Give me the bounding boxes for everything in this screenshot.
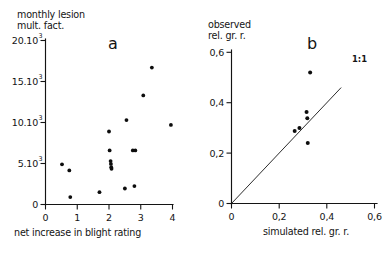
panel-b-xlabel: simulated rel. gr. r. xyxy=(263,226,349,237)
data-point xyxy=(68,195,72,199)
panel-a-x-ticks xyxy=(46,205,173,210)
panel-a-x-ticklabels: 0 1 2 3 4 xyxy=(43,212,176,223)
panel-b-xtick-0.4: 0,4 xyxy=(320,211,335,222)
panel-b-ytick-0: 0 xyxy=(218,198,224,209)
panel-a-ytick-15000: 15.10 xyxy=(12,76,38,87)
panel-a-xtick-4: 4 xyxy=(170,212,176,223)
scatter-figure: monthly lesion mult. fact. a 0 5.10 3 10… xyxy=(0,0,389,258)
panel-a-y-ticks xyxy=(41,41,46,205)
panel-b-ytick-0.4: 0,4 xyxy=(209,97,224,108)
panel-a-ytick-20000: 20.10 xyxy=(12,35,38,46)
panel-b-letter: b xyxy=(307,34,317,53)
panel-b-reference-line-label: 1:1 xyxy=(352,54,367,64)
panel-b-xtick-0.2: 0,2 xyxy=(272,211,287,222)
data-point xyxy=(107,130,111,134)
panel-b: observed rel. gr. r. b 0 0,2 0,4 0,6 xyxy=(208,19,382,237)
panel-a: monthly lesion mult. fact. a 0 5.10 3 10… xyxy=(12,9,176,238)
data-point xyxy=(308,70,312,74)
panel-a-xtick-1: 1 xyxy=(74,212,80,223)
data-point xyxy=(123,187,127,191)
data-point xyxy=(169,123,173,127)
panel-a-xtick-2: 2 xyxy=(106,212,112,223)
panel-a-data-points xyxy=(60,66,173,199)
data-point xyxy=(305,110,309,114)
panel-a-ylabel-line1: monthly lesion xyxy=(17,9,85,20)
data-point xyxy=(67,169,71,173)
panel-a-ylabel-line2: mult. fact. xyxy=(17,20,64,31)
panel-a-ytick-5000: 5.10 xyxy=(18,158,39,169)
panel-a-ytick-0: 0 xyxy=(32,199,38,210)
data-point xyxy=(305,116,309,120)
panel-a-letter: a xyxy=(108,34,118,53)
data-point xyxy=(133,148,137,152)
panel-a-xtick-3: 3 xyxy=(138,212,144,223)
panel-b-x-ticks xyxy=(232,204,375,209)
panel-b-x-ticklabels: 0 0,2 0,4 0,6 xyxy=(229,211,382,222)
panel-a-xlabel: net increase in blight rating xyxy=(14,227,141,238)
panel-a-ytick-10000: 10.10 xyxy=(12,117,38,128)
panel-b-y-ticks xyxy=(227,52,232,203)
data-point xyxy=(293,129,297,133)
panel-a-ytick-10000-exponent: 3 xyxy=(39,114,43,122)
panel-a-xtick-0: 0 xyxy=(43,212,49,223)
panel-b-ytick-0.2: 0,2 xyxy=(209,148,224,159)
data-point xyxy=(141,94,145,98)
data-point xyxy=(125,118,129,122)
panel-a-ytick-20000-exponent: 3 xyxy=(39,32,43,40)
panel-b-data-points xyxy=(293,70,312,145)
panel-b-xtick-0: 0 xyxy=(229,211,235,222)
panel-b-ytick-0.6: 0,6 xyxy=(209,47,224,58)
data-point xyxy=(108,148,112,152)
data-point xyxy=(133,184,137,188)
data-point xyxy=(109,162,113,166)
panel-b-ylabel-line1: observed xyxy=(208,19,251,30)
panel-b-reference-line-1to1 xyxy=(232,88,342,204)
data-point xyxy=(306,141,310,145)
data-point xyxy=(150,66,154,70)
panel-b-ylabel-line2: rel. gr. r. xyxy=(208,30,246,41)
panel-a-y-ticklabels: 0 5.10 3 10.10 3 15.10 3 20.10 3 xyxy=(12,32,43,210)
panel-a-ytick-5000-exponent: 3 xyxy=(39,155,43,163)
panel-a-ytick-15000-exponent: 3 xyxy=(39,73,43,81)
panel-b-xtick-0.6: 0,6 xyxy=(367,211,382,222)
figure-container: monthly lesion mult. fact. a 0 5.10 3 10… xyxy=(0,0,389,258)
data-point xyxy=(297,126,301,130)
data-point xyxy=(110,167,114,171)
panel-b-y-ticklabels: 0 0,2 0,4 0,6 xyxy=(209,47,224,209)
data-point xyxy=(60,162,64,166)
data-point xyxy=(98,190,102,194)
